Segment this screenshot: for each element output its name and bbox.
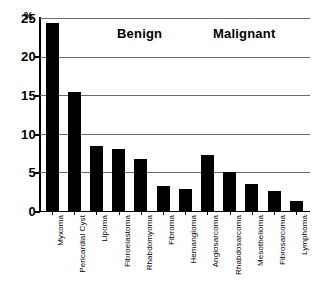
x-axis-label: Hemangioma bbox=[189, 215, 198, 264]
y-tick-label-5: 5 bbox=[0, 166, 36, 179]
bar bbox=[223, 172, 236, 211]
y-tick-label-15: 15 bbox=[0, 89, 36, 102]
bar bbox=[112, 149, 125, 211]
x-tick-mark bbox=[74, 211, 75, 215]
y-tick-label-20: 20 bbox=[0, 50, 36, 63]
x-axis-label: Angiosarcoma bbox=[211, 215, 220, 267]
bar bbox=[90, 146, 103, 211]
x-tick-mark bbox=[207, 211, 208, 215]
x-tick-mark bbox=[230, 211, 231, 215]
gridline-20 bbox=[40, 57, 310, 58]
bar bbox=[68, 92, 81, 211]
bar-chart: 25 % 20 15 10 5 0 Benign Malignant Myxom… bbox=[0, 0, 318, 283]
y-tick-label-0: 0 bbox=[0, 205, 36, 218]
x-axis-label: Lymphoma bbox=[300, 215, 309, 255]
gridline-25 bbox=[40, 18, 310, 19]
x-tick-mark bbox=[119, 211, 120, 215]
x-tick-mark bbox=[274, 211, 275, 215]
x-axis-label: Pericardial Cyst bbox=[78, 215, 87, 273]
x-axis-label: Mesothelioma bbox=[256, 215, 265, 266]
y-tick-label-10: 10 bbox=[0, 128, 36, 141]
y-axis-unit-label: % bbox=[24, 11, 33, 22]
x-axis-label: Myxoma bbox=[56, 215, 65, 246]
x-axis-label: Rhabdosarcoma bbox=[234, 215, 243, 275]
bar bbox=[201, 155, 214, 211]
bar bbox=[268, 191, 281, 211]
x-axis-label: Fibrosarcoma bbox=[278, 215, 287, 265]
x-tick-mark bbox=[96, 211, 97, 215]
bar bbox=[290, 201, 303, 211]
x-axis-line bbox=[40, 211, 310, 212]
x-tick-mark bbox=[185, 211, 186, 215]
bar bbox=[157, 186, 170, 211]
bar bbox=[46, 23, 59, 211]
x-axis-label: Fibroelastoma bbox=[123, 215, 132, 267]
x-axis-label: Fibroma bbox=[167, 215, 176, 245]
x-axis-label: Rhabdomyoma bbox=[145, 215, 154, 270]
bar bbox=[179, 189, 192, 211]
x-axis-label: Lipoma bbox=[100, 215, 109, 242]
plot-area bbox=[40, 18, 310, 211]
x-tick-mark bbox=[163, 211, 164, 215]
x-tick-mark bbox=[296, 211, 297, 215]
x-tick-mark bbox=[52, 211, 53, 215]
bar bbox=[245, 184, 258, 211]
x-tick-mark bbox=[252, 211, 253, 215]
x-tick-mark bbox=[141, 211, 142, 215]
bar bbox=[134, 159, 147, 211]
x-axis-labels: MyxomaPericardial CystLipomaFibroelastom… bbox=[40, 213, 310, 283]
